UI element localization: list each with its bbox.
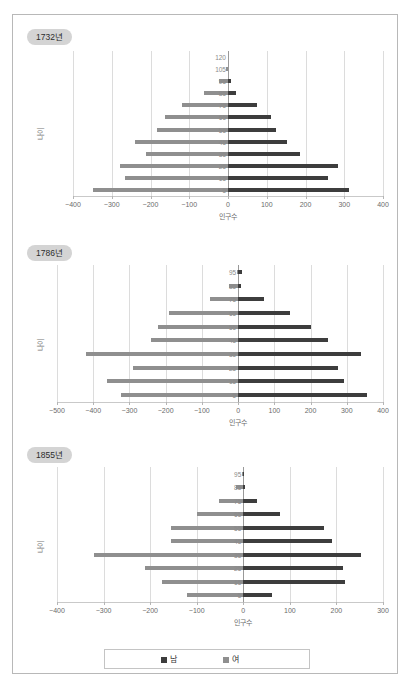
bar-female (125, 176, 228, 180)
bar-male (228, 188, 349, 192)
bar-female (171, 526, 243, 530)
bar-female (145, 566, 243, 570)
page-title (0, 0, 410, 14)
x-tick-mark (290, 602, 291, 605)
year-badge-1855: 1855년 (27, 447, 72, 463)
gridline (150, 467, 151, 602)
x-tick-label: 200 (300, 201, 312, 208)
age-tick-label: 65 (234, 511, 243, 518)
x-tick-mark (311, 402, 312, 405)
x-tick-mark (383, 196, 384, 199)
year-badge-1732: 1732년 (27, 29, 72, 45)
y-axis-label-1: 나이 (35, 127, 45, 140)
gridline (151, 51, 152, 196)
x-tick-mark (166, 402, 167, 405)
x-tick-mark (189, 196, 190, 199)
x-tick-mark (383, 602, 384, 605)
age-tick-label: 25 (219, 162, 228, 169)
bar-female (162, 580, 244, 584)
x-tick-label: −100 (189, 607, 205, 614)
pyramid-panel-1786: 1786년 나이 5152535455565758595 −500−400−30… (13, 233, 399, 435)
bar-male (228, 164, 338, 168)
legend: 남 여 (104, 649, 310, 669)
age-tick-label: 105 (215, 66, 228, 73)
bar-male (238, 311, 290, 315)
legend-item-male: 남 (161, 655, 177, 665)
legend-swatch-male (161, 657, 167, 663)
y-axis-label-3: 나이 (35, 540, 45, 553)
bar-male (238, 379, 344, 383)
x-tick-label: −300 (96, 607, 112, 614)
chart-page: 1732년 나이 5152535455565758595105120 −400−… (0, 0, 410, 687)
age-tick-label: 15 (229, 378, 238, 385)
bar-male (228, 176, 328, 180)
x-tick-mark (73, 196, 74, 199)
x-axis-title: 인구수 (234, 617, 252, 627)
x-tick-mark (104, 602, 105, 605)
gridline (344, 51, 345, 196)
x-tick-mark (336, 602, 337, 605)
bar-female (151, 338, 238, 342)
gridline (104, 467, 105, 602)
plot-area-1732: 5152535455565758595105120 (73, 51, 383, 196)
bar-male (228, 79, 231, 83)
legend-item-female: 여 (223, 655, 239, 665)
year-badge-1786: 1786년 (27, 245, 72, 261)
age-tick-label: 55 (219, 126, 228, 133)
x-tick-mark (151, 196, 152, 199)
gridline (57, 265, 58, 402)
x-tick-mark (274, 402, 275, 405)
gridline (189, 51, 190, 196)
x-axis-title: 인구수 (219, 211, 237, 221)
gridline (57, 467, 58, 602)
x-axis-line (57, 402, 383, 403)
pyramid-panel-1855: 1855년 나이 5152535455565758595 −400−300−20… (13, 435, 399, 635)
age-tick-label: 95 (229, 268, 238, 275)
age-tick-label: 75 (219, 102, 228, 109)
x-tick-mark (228, 196, 229, 199)
chart-frame: 1732년 나이 5152535455565758595105120 −400−… (12, 14, 398, 674)
gridline (383, 51, 384, 196)
x-tick-label: −400 (65, 201, 81, 208)
gridline (228, 51, 229, 196)
legend-label-male: 남 (170, 655, 177, 664)
x-tick-mark (129, 402, 130, 405)
bar-female (158, 325, 238, 329)
gridline (73, 51, 74, 196)
x-tick-mark (306, 196, 307, 199)
bar-male (238, 352, 360, 356)
bar-male (238, 325, 310, 329)
gridline (112, 51, 113, 196)
bar-male (243, 512, 279, 516)
x-tick-mark (93, 402, 94, 405)
age-tick-label: 15 (234, 578, 243, 585)
legend-label-female: 여 (232, 655, 239, 664)
x-tick-label: −200 (143, 201, 159, 208)
age-tick-label: 5 (238, 592, 244, 599)
x-tick-mark (383, 402, 384, 405)
gridline (383, 467, 384, 602)
x-tick-label: 0 (236, 407, 240, 414)
x-tick-mark (150, 602, 151, 605)
x-tick-mark (202, 402, 203, 405)
bar-male (243, 566, 343, 570)
age-tick-label: 45 (219, 138, 228, 145)
bar-female (157, 128, 228, 132)
x-tick-mark (243, 602, 244, 605)
x-tick-label: 100 (284, 607, 296, 614)
age-tick-label: 45 (234, 538, 243, 545)
x-tick-label: −400 (85, 407, 101, 414)
x-axis-line (57, 602, 383, 603)
legend-swatch-female (223, 657, 229, 663)
age-tick-label: 85 (234, 484, 243, 491)
age-tick-label: 75 (234, 497, 243, 504)
bar-male (238, 297, 264, 301)
bar-female (135, 140, 228, 144)
bar-female (94, 553, 243, 557)
bar-male (228, 140, 287, 144)
bar-male (243, 485, 245, 489)
plot-area-1855: 5152535455565758595 (57, 467, 383, 602)
age-tick-label: 55 (229, 323, 238, 330)
age-tick-label: 45 (229, 337, 238, 344)
age-tick-label: 25 (229, 364, 238, 371)
